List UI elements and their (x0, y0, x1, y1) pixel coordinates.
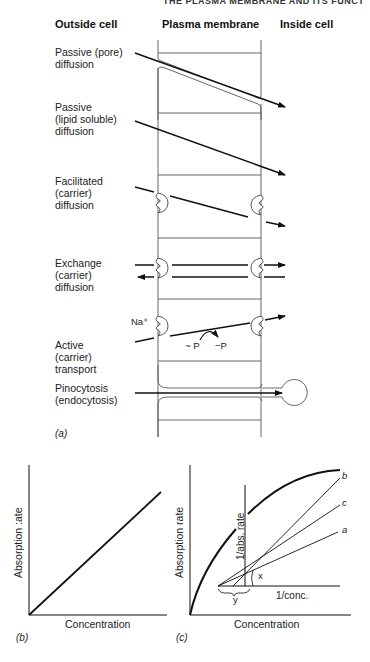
panel-label-c: (c) (176, 632, 188, 643)
chart-c-xlabel: Concentration (234, 618, 299, 630)
line-label-b: b (342, 470, 347, 481)
line-label-a: a (342, 524, 347, 535)
membrane-diagram (0, 0, 370, 460)
inset-ylabel: 1/abs. rate (235, 513, 246, 560)
chart-c-ylabel: Absorption rate (173, 507, 185, 578)
chart-b-ylabel: Absorption :ate (12, 507, 24, 578)
annotation-x: x (258, 570, 263, 581)
chart-b-xlabel: Concentration (65, 618, 130, 630)
inset-xlabel: 1/conc. (276, 590, 308, 601)
line-label-c: c (342, 497, 347, 508)
annotation-y: y (233, 594, 238, 605)
panel-label-b: (b) (16, 632, 28, 643)
